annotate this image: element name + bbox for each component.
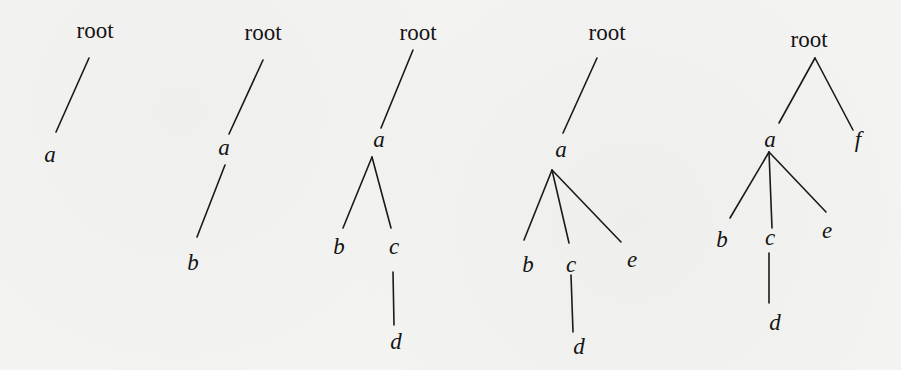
edge-a-e bbox=[769, 152, 826, 212]
edge-root-a bbox=[563, 58, 597, 133]
node-root: root bbox=[399, 20, 437, 45]
edge-a-b bbox=[343, 157, 372, 228]
node-e: e bbox=[822, 218, 832, 243]
node-d: d bbox=[390, 329, 402, 354]
edge-a-c bbox=[372, 157, 391, 228]
edge-a-b bbox=[197, 165, 225, 237]
node-a: a bbox=[44, 142, 56, 167]
node-a: a bbox=[218, 135, 230, 160]
edge-a-b bbox=[730, 152, 769, 218]
node-root: root bbox=[244, 20, 282, 45]
node-c: c bbox=[765, 225, 775, 250]
edge-root-a bbox=[779, 58, 815, 123]
node-c: c bbox=[389, 234, 399, 259]
node-root: root bbox=[588, 20, 626, 45]
tree-5: rootafbced bbox=[716, 27, 865, 335]
edge-root-f bbox=[815, 58, 853, 130]
tree-3: rootabcd bbox=[333, 20, 437, 354]
edge-c-d bbox=[571, 275, 573, 332]
node-a: a bbox=[555, 137, 567, 162]
node-e: e bbox=[627, 247, 637, 272]
node-d: d bbox=[573, 334, 585, 359]
node-d: d bbox=[769, 310, 781, 335]
edge-a-c bbox=[769, 152, 772, 228]
tree-diagram: rootarootabrootabcdrootabcedrootafbced bbox=[0, 0, 901, 370]
node-root: root bbox=[76, 18, 114, 43]
node-c: c bbox=[566, 252, 576, 277]
edge-root-a bbox=[229, 60, 263, 134]
edge-a-c bbox=[552, 170, 569, 243]
edge-root-a bbox=[56, 58, 89, 132]
trees-container: rootarootabrootabcdrootabcedrootafbced bbox=[44, 18, 865, 359]
node-a: a bbox=[373, 127, 385, 152]
node-root: root bbox=[790, 27, 828, 52]
node-a: a bbox=[764, 127, 776, 152]
edge-root-a bbox=[381, 50, 413, 128]
tree-1: roota bbox=[44, 18, 114, 167]
node-b: b bbox=[187, 250, 199, 275]
tree-2: rootab bbox=[187, 20, 282, 275]
node-b: b bbox=[716, 227, 728, 252]
node-b: b bbox=[333, 234, 345, 259]
node-f: f bbox=[855, 127, 865, 152]
edge-a-e bbox=[552, 170, 621, 242]
tree-4: rootabced bbox=[522, 20, 637, 359]
node-b: b bbox=[522, 252, 534, 277]
edge-c-d bbox=[393, 272, 394, 325]
edge-a-b bbox=[524, 170, 552, 240]
